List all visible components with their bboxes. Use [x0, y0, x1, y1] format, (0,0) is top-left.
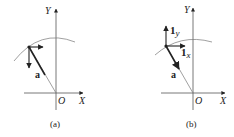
y-axis-label: Y — [184, 4, 191, 15]
circular-arc — [14, 38, 75, 61]
unit-y-label: 1y — [170, 24, 180, 38]
point — [164, 44, 167, 47]
point — [27, 45, 30, 48]
vector-label: a — [35, 69, 40, 80]
origin-label: O — [195, 95, 202, 106]
x-axis-label: X — [219, 95, 227, 106]
vector-label: a — [171, 69, 176, 80]
unit-x-label: 1x — [181, 46, 191, 60]
origin-label: O — [58, 95, 65, 106]
vector-a-thick — [166, 46, 179, 69]
y-axis-label: Y — [45, 5, 52, 16]
x-axis-label: X — [78, 95, 86, 106]
diagram-canvas: Y X O a (a) 1y 1x Y X O a (b) — [0, 0, 234, 137]
caption: (b) — [186, 119, 197, 129]
caption: (a) — [50, 119, 60, 129]
figure-a: Y X O a (a) — [14, 5, 86, 129]
figure-b: 1y 1x Y X O a (b) — [155, 4, 227, 129]
